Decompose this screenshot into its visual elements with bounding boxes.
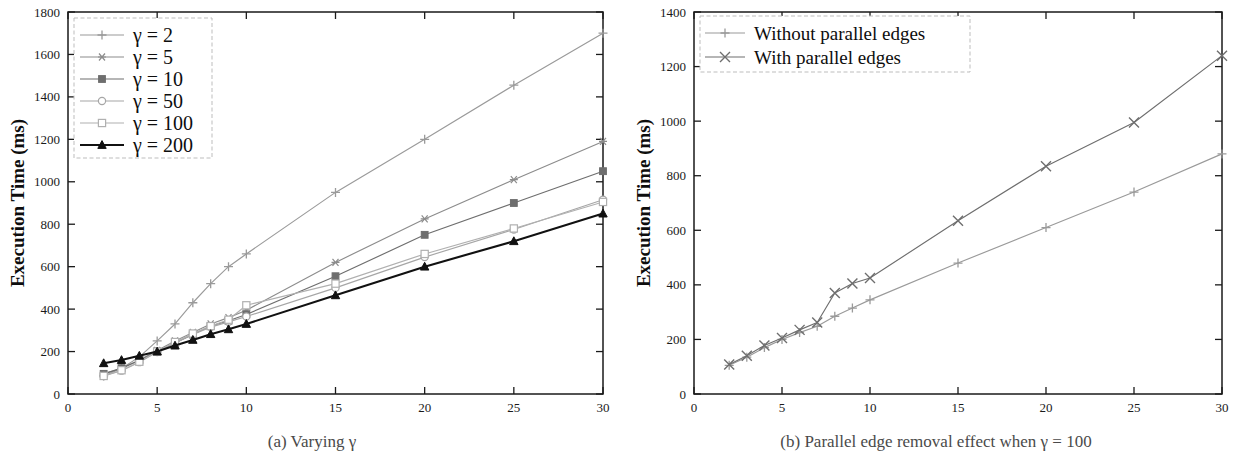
data-point — [599, 198, 606, 205]
data-point — [510, 176, 518, 183]
panel-b-caption: (b) Parallel edge removal effect when γ … — [624, 432, 1248, 452]
data-point — [510, 225, 517, 232]
data-point — [118, 367, 125, 374]
data-point — [331, 188, 340, 197]
x-tick-label: 20 — [1040, 400, 1053, 415]
data-point — [421, 215, 429, 222]
y-tick-label: 1400 — [34, 89, 60, 104]
x-tick-label: 0 — [691, 400, 698, 415]
legend-label: γ = 50 — [132, 90, 183, 113]
x-tick-label: 30 — [597, 400, 610, 415]
panel-a-caption: (a) Varying γ — [0, 432, 624, 452]
data-point — [847, 278, 857, 288]
y-tick-label: 800 — [41, 217, 61, 232]
data-point — [421, 231, 428, 238]
data-point — [830, 288, 840, 298]
series-markers — [99, 209, 607, 366]
legend-label: γ = 2 — [132, 24, 173, 47]
x-tick-label: 25 — [507, 400, 520, 415]
y-tick-label: 1600 — [34, 47, 60, 62]
data-point — [1041, 161, 1051, 171]
data-point — [243, 302, 250, 309]
data-point — [865, 273, 875, 283]
x-tick-label: 15 — [329, 400, 342, 415]
x-tick-label: 10 — [240, 400, 253, 415]
y-tick-label: 400 — [41, 302, 61, 317]
data-point — [242, 249, 251, 258]
legend-label: γ = 100 — [132, 112, 193, 135]
series-markers — [725, 149, 1227, 369]
y-tick-label: 200 — [41, 344, 61, 359]
x-tick-label: 20 — [418, 400, 431, 415]
legend-marker — [98, 97, 105, 104]
y-tick-label: 1000 — [34, 174, 60, 189]
figure-container: 0200400600800100012001400160018000510152… — [0, 0, 1248, 474]
data-point — [599, 209, 607, 217]
y-tick-label: 1800 — [34, 5, 60, 20]
legend-label: Without parallel edges — [754, 23, 925, 44]
y-tick-label: 1200 — [34, 132, 60, 147]
data-point — [509, 81, 518, 90]
data-point — [1218, 149, 1227, 158]
panel-b-plot: 0200400600800100012001400051015202530Ave… — [624, 0, 1248, 420]
data-point — [954, 259, 963, 268]
y-tick-label: 1400 — [660, 5, 686, 20]
data-point — [100, 372, 107, 379]
y-tick-label: 600 — [667, 223, 687, 238]
y-tick-label: 1000 — [660, 114, 686, 129]
data-point — [830, 312, 839, 321]
y-tick-label: 1200 — [660, 59, 686, 74]
panel-a-plot: 0200400600800100012001400160018000510152… — [0, 0, 624, 420]
series-line — [104, 200, 603, 376]
panel-b-svg: 0200400600800100012001400051015202530Ave… — [624, 0, 1248, 420]
data-point — [207, 322, 214, 329]
y-tick-label: 200 — [667, 332, 687, 347]
data-point — [332, 259, 340, 266]
data-point — [600, 168, 607, 175]
data-point — [848, 304, 857, 313]
y-axis-title: Execution Time (ms) — [633, 119, 655, 287]
legend-label: With parallel edges — [754, 47, 901, 68]
legend-label: γ = 10 — [132, 68, 183, 91]
x-tick-label: 0 — [65, 400, 72, 415]
data-point — [1129, 118, 1139, 128]
series-line — [729, 56, 1222, 365]
y-tick-label: 600 — [41, 259, 61, 274]
data-point — [1130, 188, 1139, 197]
data-point — [332, 273, 339, 280]
legend-marker — [98, 119, 105, 126]
data-point — [866, 295, 875, 304]
x-tick-label: 30 — [1216, 400, 1229, 415]
data-point — [332, 280, 339, 287]
legend-label: γ = 200 — [132, 134, 193, 157]
data-point — [420, 135, 429, 144]
panel-a: 0200400600800100012001400160018000510152… — [0, 0, 624, 474]
legend-marker — [99, 76, 106, 83]
data-point — [953, 216, 963, 226]
panel-a-svg: 0200400600800100012001400160018000510152… — [0, 0, 624, 420]
x-tick-label: 5 — [154, 400, 161, 415]
y-tick-label: 800 — [667, 168, 687, 183]
y-tick-label: 0 — [680, 387, 687, 402]
data-point — [510, 200, 517, 207]
data-point — [1042, 223, 1051, 232]
y-tick-label: 400 — [667, 277, 687, 292]
data-point — [421, 250, 428, 257]
x-tick-label: 5 — [779, 400, 786, 415]
x-tick-label: 15 — [952, 400, 965, 415]
x-tick-label: 10 — [864, 400, 877, 415]
legend-label: γ = 5 — [132, 46, 173, 69]
data-point — [225, 316, 232, 323]
y-axis-title: Execution Time (ms) — [7, 119, 29, 287]
y-tick-label: 0 — [54, 387, 61, 402]
data-point — [599, 29, 608, 38]
panel-b: 0200400600800100012001400051015202530Ave… — [624, 0, 1248, 474]
x-tick-label: 25 — [1128, 400, 1141, 415]
